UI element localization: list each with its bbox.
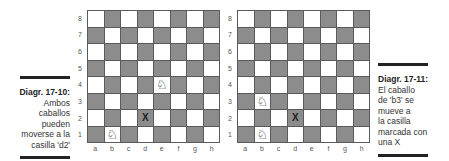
square-c7 [271,28,287,44]
file-label: h [353,145,370,157]
square-f2 [171,110,187,126]
rank-label: 4 [225,77,235,94]
square-e1 [304,127,320,143]
square-a7 [88,28,104,44]
white-knight-icon: ♘ [256,95,268,108]
square-c5 [271,61,287,77]
chessboard-diagram-17-11: ♘X♘ [237,10,370,143]
square-f1 [321,127,337,143]
square-a3 [238,94,254,110]
square-h1 [354,127,370,143]
file-label: f [170,145,187,157]
file-label: b [254,145,271,157]
rank-label: 6 [75,43,85,60]
square-g6 [337,44,353,60]
square-a2 [88,110,104,126]
square-h2 [354,110,370,126]
file-label: a [237,145,254,157]
square-d7 [138,28,154,44]
square-b3: ♘ [255,94,271,110]
square-b1: ♘ [255,127,271,143]
rank-label: 3 [75,93,85,110]
square-a4 [238,77,254,93]
square-f8 [321,11,337,27]
caption-line: marcada con [378,127,442,138]
square-b5 [105,61,121,77]
square-d8 [138,11,154,27]
caption-line: pueden [18,119,70,130]
square-d4 [288,77,304,93]
square-e5 [154,61,170,77]
square-b2 [255,110,271,126]
square-e7 [154,28,170,44]
square-a3 [88,94,104,110]
square-a5 [88,61,104,77]
file-label: h [203,145,220,157]
white-knight-icon: ♘ [156,78,168,91]
square-e3 [154,94,170,110]
file-label: b [104,145,121,157]
rank-labels: 87654321 [225,10,235,143]
square-f7 [321,28,337,44]
square-c4 [121,77,137,93]
rank-label: 3 [225,93,235,110]
square-c3 [271,94,287,110]
square-a1 [238,127,254,143]
square-d3 [138,94,154,110]
white-knight-icon: ♘ [256,128,268,141]
square-b7 [105,28,121,44]
square-d4 [138,77,154,93]
square-c2 [271,110,287,126]
square-f4 [171,77,187,93]
caption-rule-bottom [20,156,70,159]
square-h1 [204,127,220,143]
target-x-mark: X [142,112,149,123]
caption-line: la casilla [378,116,442,127]
file-label: e [304,145,321,157]
rank-labels: 87654321 [75,10,85,143]
square-e1 [154,127,170,143]
square-f5 [321,61,337,77]
rank-label: 8 [75,10,85,27]
square-h8 [354,11,370,27]
square-b6 [255,44,271,60]
square-g3 [337,94,353,110]
square-a5 [238,61,254,77]
square-f1 [171,127,187,143]
square-f3 [321,94,337,110]
target-x-mark: X [292,112,299,123]
square-h8 [204,11,220,27]
square-b7 [255,28,271,44]
square-h4 [354,77,370,93]
square-e8 [154,11,170,27]
caption-diagram-17-10: Diagr. 17-10: Ambos caballos pueden move… [18,76,70,159]
rank-label: 4 [75,77,85,94]
square-h3 [204,94,220,110]
square-a6 [88,44,104,60]
square-a8 [238,11,254,27]
square-c3 [121,94,137,110]
square-d8 [288,11,304,27]
square-f2 [321,110,337,126]
square-b6 [105,44,121,60]
square-f7 [171,28,187,44]
square-e6 [154,44,170,60]
square-f4 [321,77,337,93]
square-g7 [337,28,353,44]
square-a6 [238,44,254,60]
rank-label: 8 [225,10,235,27]
square-c5 [121,61,137,77]
square-g3 [187,94,203,110]
square-a1 [88,127,104,143]
square-c6 [271,44,287,60]
square-c6 [121,44,137,60]
square-e8 [304,11,320,27]
square-b4 [255,77,271,93]
file-label: c [120,145,137,157]
square-h6 [354,44,370,60]
square-g8 [187,11,203,27]
square-h6 [204,44,220,60]
square-a8 [88,11,104,27]
square-e2 [154,110,170,126]
rank-label: 1 [75,126,85,143]
